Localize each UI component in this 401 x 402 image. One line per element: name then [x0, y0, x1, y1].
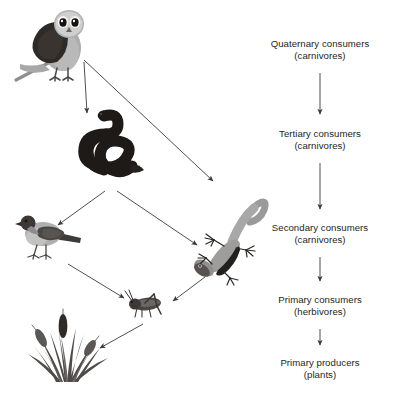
- trophic-label-tertiary-sub: (carnivores): [279, 140, 361, 152]
- trophic-label-primary-producers-sub: (plants): [280, 369, 359, 381]
- owl-illustration: [10, 4, 96, 84]
- bird-illustration: [17, 208, 85, 264]
- grass-illustration: [20, 308, 112, 384]
- trophic-label-tertiary-main: Tertiary consumers: [279, 128, 361, 140]
- trophic-label-secondary: Secondary consumers (carnivores): [272, 222, 368, 247]
- lizard-illustration: [188, 184, 270, 286]
- grasshopper-illustration: [123, 288, 169, 322]
- trophic-label-primary-consumers: Primary consumers (herbivores): [278, 294, 361, 319]
- trophic-label-primary-consumers-main: Primary consumers: [278, 294, 361, 306]
- trophic-label-secondary-main: Secondary consumers: [272, 222, 368, 234]
- trophic-label-primary-producers-main: Primary producers: [280, 357, 359, 369]
- trophic-label-primary-producers: Primary producers (plants): [280, 357, 359, 382]
- trophic-label-tertiary: Tertiary consumers (carnivores): [279, 128, 361, 153]
- trophic-label-quaternary: Quaternary consumers (carnivores): [271, 38, 370, 63]
- food-chain-diagram: Quaternary consumers (carnivores) Tertia…: [0, 0, 401, 402]
- snake-illustration: [74, 104, 156, 188]
- trophic-label-primary-consumers-sub: (herbivores): [278, 306, 361, 318]
- trophic-label-quaternary-main: Quaternary consumers: [271, 38, 370, 50]
- trophic-label-secondary-sub: (carnivores): [272, 234, 368, 246]
- trophic-label-quaternary-sub: (carnivores): [271, 50, 370, 62]
